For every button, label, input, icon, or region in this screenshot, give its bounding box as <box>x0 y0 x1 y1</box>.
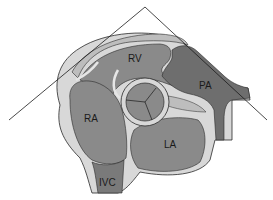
heart-diagram: RV RA LA PA IVC <box>0 0 273 200</box>
label-ra: RA <box>84 113 98 124</box>
label-pa: PA <box>199 80 212 91</box>
label-la: LA <box>164 139 177 150</box>
label-rv: RV <box>128 53 142 64</box>
label-ivc: IVC <box>99 177 116 188</box>
